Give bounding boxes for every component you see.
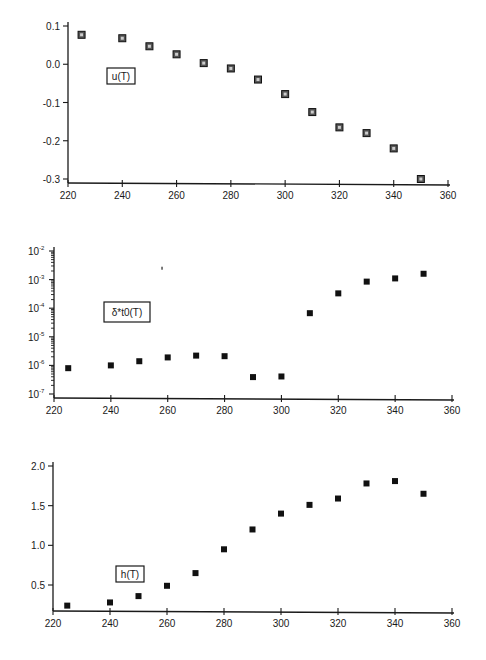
x-tick-label: 340 xyxy=(387,405,404,416)
x-tick-label: 240 xyxy=(102,618,119,629)
x-axis xyxy=(68,183,450,185)
x-tick-label: 360 xyxy=(440,190,457,201)
x-tick-label: 360 xyxy=(444,405,461,416)
chart-panel-3: 2202402602803003203403602.01.51.00.5h(T) xyxy=(31,461,461,629)
x-tick-label: 320 xyxy=(330,405,347,416)
data-point xyxy=(278,373,284,379)
chart-panel-1: 2202402602803003203403600.10.0-0.1-0.2-0… xyxy=(43,21,457,201)
data-point xyxy=(165,354,171,360)
data-point-inner xyxy=(121,37,124,40)
y-tick-label: 0.0 xyxy=(46,59,60,70)
series-label: δ*t0(T) xyxy=(112,307,143,318)
data-point-inner xyxy=(80,33,83,36)
data-point xyxy=(364,279,370,285)
data-point xyxy=(250,526,256,532)
chart-panel-2: 22024026028030032034036010-210-310-410-5… xyxy=(28,245,461,416)
data-point xyxy=(193,353,199,359)
y-tick-label: 10-6 xyxy=(28,359,45,371)
data-point xyxy=(65,365,71,371)
x-tick-label: 300 xyxy=(273,405,290,416)
y-tick-label: -0.2 xyxy=(43,136,61,147)
x-tick-label: 240 xyxy=(114,190,131,201)
series-label: h(T) xyxy=(121,569,139,580)
data-point xyxy=(335,496,341,502)
stray-mark xyxy=(161,267,162,270)
y-tick-label: 1.0 xyxy=(31,540,45,551)
x-tick-label: 360 xyxy=(444,618,461,629)
data-point xyxy=(221,546,227,552)
x-tick-label: 260 xyxy=(159,405,176,416)
y-tick-label: 10-3 xyxy=(28,274,45,286)
y-tick-label: 10-7 xyxy=(28,388,45,400)
data-point xyxy=(108,362,114,368)
x-tick-label: 340 xyxy=(387,618,404,629)
x-tick-label: 300 xyxy=(273,618,290,629)
y-tick-label: 10-5 xyxy=(28,331,45,343)
x-tick-label: 280 xyxy=(223,190,240,201)
x-tick-label: 260 xyxy=(159,618,176,629)
data-point xyxy=(392,275,398,281)
data-point xyxy=(278,511,284,517)
x-axis xyxy=(54,398,454,400)
x-tick-label: 220 xyxy=(60,190,77,201)
y-tick-label: 10-2 xyxy=(28,245,45,257)
data-point-inner xyxy=(419,178,422,181)
x-tick-label: 240 xyxy=(103,405,120,416)
x-tick-label: 260 xyxy=(168,190,185,201)
data-point xyxy=(107,599,113,605)
data-point-inner xyxy=(202,62,205,65)
data-point-inner xyxy=(229,67,232,70)
x-tick-label: 220 xyxy=(45,618,62,629)
data-point xyxy=(307,310,313,316)
data-point xyxy=(136,593,142,599)
x-tick-label: 280 xyxy=(216,618,233,629)
data-point-inner xyxy=(392,147,395,150)
x-tick-label: 320 xyxy=(331,190,348,201)
data-point xyxy=(335,290,341,296)
x-tick-label: 280 xyxy=(216,405,233,416)
x-tick-label: 340 xyxy=(385,190,402,201)
y-tick-label: 2.0 xyxy=(31,461,45,472)
data-point-inner xyxy=(175,53,178,56)
data-point xyxy=(64,603,70,609)
data-point xyxy=(392,478,398,484)
data-point xyxy=(421,491,427,497)
data-point-inner xyxy=(148,45,151,48)
data-point-inner xyxy=(338,126,341,129)
x-tick-label: 300 xyxy=(277,190,294,201)
data-point-inner xyxy=(365,132,368,135)
data-point-inner xyxy=(284,93,287,96)
y-tick-label: 1.5 xyxy=(31,501,45,512)
data-point xyxy=(421,271,427,277)
series-label: u(T) xyxy=(112,71,130,82)
y-tick-label: 10-4 xyxy=(28,302,45,314)
y-tick-label: 0.5 xyxy=(31,580,45,591)
data-point xyxy=(136,358,142,364)
x-axis xyxy=(53,611,454,613)
data-point xyxy=(193,570,199,576)
data-point-inner xyxy=(311,111,314,114)
x-tick-label: 220 xyxy=(46,405,63,416)
data-point-inner xyxy=(257,78,260,81)
data-point xyxy=(164,583,170,589)
x-tick-label: 320 xyxy=(330,618,347,629)
data-point xyxy=(307,502,313,508)
data-point xyxy=(250,374,256,380)
data-point xyxy=(222,353,228,359)
figure: 2202402602803003203403600.10.0-0.1-0.2-0… xyxy=(0,0,486,660)
y-tick-label: -0.3 xyxy=(43,174,61,185)
y-tick-label: -0.1 xyxy=(43,98,61,109)
data-point xyxy=(364,480,370,486)
y-tick-label: 0.1 xyxy=(46,21,60,32)
